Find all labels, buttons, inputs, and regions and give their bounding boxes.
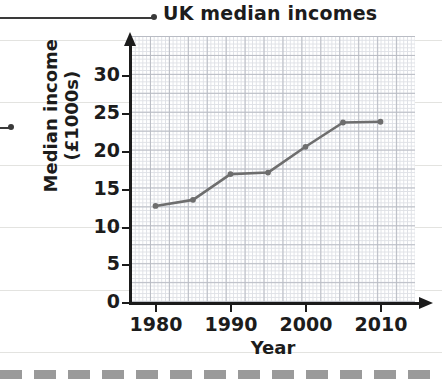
x-tick-2010 — [380, 303, 382, 312]
y-axis-title-line1: Median income — [41, 21, 62, 211]
x-tick-label-1980: 1980 — [130, 313, 183, 335]
y-tick-10 — [122, 227, 132, 229]
x-tick-label-1990: 1990 — [205, 313, 258, 335]
x-tick-2000 — [305, 303, 307, 312]
x-axis-title: Year — [131, 337, 415, 358]
axis-leader-dot — [8, 124, 14, 130]
title-leader-line — [0, 17, 154, 19]
y-tick-0 — [122, 302, 132, 304]
x-tick-1980 — [155, 303, 157, 312]
plot-grid — [131, 36, 415, 303]
y-tick-5 — [122, 264, 132, 266]
x-tick-label-2000: 2000 — [280, 313, 333, 335]
y-tick-15 — [122, 189, 132, 191]
page-cut-line — [0, 370, 442, 379]
chart-title: UK median incomes — [163, 2, 377, 24]
y-axis-title: Median income (£1000s) — [41, 21, 82, 211]
y-axis-arrow-icon — [124, 32, 136, 46]
y-tick-20 — [122, 151, 132, 153]
x-tick-label-2010: 2010 — [355, 313, 408, 335]
y-tick-30 — [122, 75, 132, 77]
x-axis-arrow-icon — [419, 297, 433, 309]
x-tick-1990 — [230, 303, 232, 312]
x-axis-line — [129, 302, 422, 305]
y-axis-title-line2: (£1000s) — [62, 21, 83, 211]
y-tick-25 — [122, 113, 132, 115]
title-leader-dot — [151, 14, 157, 20]
